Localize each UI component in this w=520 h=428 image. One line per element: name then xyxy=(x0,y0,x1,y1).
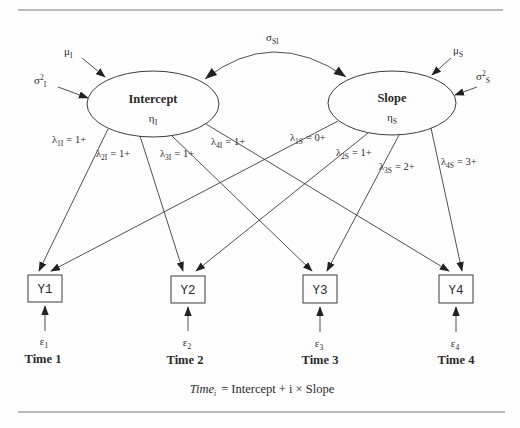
slope-mean-arrow xyxy=(432,58,451,75)
indicator-label: Y3 xyxy=(312,284,327,298)
covariance-arrowhead-right xyxy=(334,66,349,80)
loading-label-2i: λ2I= 1+ xyxy=(96,148,130,162)
indicator-label: Y1 xyxy=(37,283,52,297)
loading-label-1s: λ1S= 0+ xyxy=(290,132,326,146)
time-label: Time 1 xyxy=(25,352,62,366)
intercept-mean-label: μI xyxy=(64,45,73,60)
indicator-label: Y4 xyxy=(448,284,463,298)
error-label: ε1 xyxy=(40,335,49,350)
loading-label-4s: λ4S= 3+ xyxy=(441,156,477,170)
loading-path-slope-y4 xyxy=(431,128,462,271)
slope-title: Slope xyxy=(377,91,407,105)
covariance-label: σSI xyxy=(266,31,279,46)
intercept-variance-label: σ2I xyxy=(34,73,47,89)
loading-label-2s: λ2S= 1+ xyxy=(336,147,372,161)
loading-label-1i: λ1I= 1+ xyxy=(52,134,86,148)
error-label: ε4 xyxy=(451,337,460,352)
indicator-label: Y2 xyxy=(180,284,195,298)
slope-variance-arrow xyxy=(455,87,477,95)
figure-canvas: σSI Intercept ηI Slope ηS μI σ2I μS σ2S … xyxy=(0,0,520,428)
time-label: Time 3 xyxy=(302,353,339,367)
covariance-arrowhead-left xyxy=(202,68,217,83)
intercept-variance-arrow xyxy=(58,87,88,98)
error-label: ε2 xyxy=(183,336,192,351)
intercept-mean-arrow xyxy=(82,58,105,77)
slope-mean-label: μS xyxy=(453,44,463,59)
slope-variance-label: σ2S xyxy=(476,69,490,85)
loading-label-3i: λ3I= 1+ xyxy=(160,148,194,162)
intercept-title: Intercept xyxy=(128,92,178,106)
time-label: Time 4 xyxy=(438,353,476,367)
path-diagram: σSI Intercept ηI Slope ηS μI σ2I μS σ2S … xyxy=(0,0,520,428)
error-label: ε3 xyxy=(315,337,324,352)
loading-label-4i: λ4I= 1+ xyxy=(211,136,245,150)
covariance-arrow xyxy=(205,52,346,79)
model-equation: Timei= Intercept + i × Slope xyxy=(190,382,335,398)
time-label: Time 2 xyxy=(167,353,204,367)
